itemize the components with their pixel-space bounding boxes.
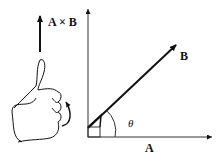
vector-b-label: B — [180, 49, 188, 63]
curl-arrow-icon — [62, 102, 70, 126]
origin-triangle — [88, 115, 101, 127]
cross-product-label: A × B — [48, 15, 77, 29]
cross-product-diagram: A × B A B θ — [0, 0, 222, 161]
angle-label: θ — [128, 117, 134, 129]
angle-arc — [106, 110, 116, 137]
thumbs-up-right-hand-icon — [12, 60, 61, 142]
vector-a-label: A — [145, 141, 154, 155]
origin-box — [88, 127, 100, 137]
